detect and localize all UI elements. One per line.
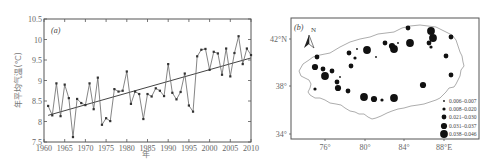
station-dot <box>397 42 399 44</box>
legend-label: 0.021–0.030 <box>449 114 477 120</box>
region-outline <box>299 25 464 119</box>
data-point <box>151 95 153 97</box>
data-point <box>217 52 219 54</box>
x-tick-label: 1995 <box>181 144 197 153</box>
data-point <box>188 104 190 106</box>
station-dot <box>380 98 383 101</box>
data-point <box>175 98 177 100</box>
data-point <box>134 90 136 92</box>
x-tick-label: 2000 <box>202 144 218 153</box>
legend-dot <box>442 115 447 120</box>
station-dot <box>347 51 352 56</box>
station-dot <box>429 34 437 42</box>
data-point <box>233 52 235 54</box>
x-tick-label: 1965 <box>57 144 73 153</box>
data-point <box>117 90 119 92</box>
station-dot <box>349 64 354 69</box>
data-point <box>155 87 157 89</box>
data-point <box>93 108 95 110</box>
data-point <box>130 103 132 105</box>
x-axis-title: 年 <box>142 149 150 159</box>
station-dot <box>360 93 368 101</box>
x-tick-label: 1975 <box>98 144 114 153</box>
data-point <box>184 72 186 74</box>
data-point <box>113 88 115 90</box>
data-point <box>72 136 74 138</box>
data-point <box>109 120 111 122</box>
legend-label: 0.031–0.037 <box>449 123 477 129</box>
data-point <box>84 104 86 106</box>
lon-tick-label: 76° <box>319 143 330 152</box>
x-tick-label: 1980 <box>119 144 135 153</box>
data-point <box>51 114 53 116</box>
data-point <box>225 47 227 49</box>
lat-tick-label: 34° <box>276 130 287 139</box>
data-point <box>55 82 57 84</box>
x-tick-label: 2010 <box>243 144 259 153</box>
data-point <box>200 49 202 51</box>
data-point <box>250 54 252 56</box>
data-point <box>196 55 198 57</box>
data-point <box>68 97 70 99</box>
lon-tick-label: 84° <box>398 143 409 152</box>
station-dot <box>390 94 398 102</box>
legend-label: 0.008–0.020 <box>449 106 477 112</box>
station-dot <box>363 46 371 54</box>
data-point <box>47 105 49 107</box>
data-point <box>246 47 248 49</box>
data-point <box>105 117 107 119</box>
station-dot <box>449 73 454 78</box>
station-dot <box>353 56 356 59</box>
data-point <box>64 84 66 86</box>
station-dot <box>330 69 335 74</box>
station-dot <box>335 85 341 91</box>
data-point <box>209 69 211 71</box>
data-point <box>167 63 169 65</box>
station-dot <box>427 41 432 46</box>
station-dot <box>375 56 377 58</box>
station-dot <box>339 76 341 78</box>
data-point <box>126 70 128 72</box>
panel-label-b: (b) <box>294 23 304 32</box>
station-dot <box>335 80 340 85</box>
figure: 7.588.599.51010.5 1960196519701975198019… <box>0 0 496 164</box>
station-dot <box>356 48 358 50</box>
legend: 0.006–0.0070.008–0.0200.021–0.0300.031–0… <box>440 98 477 138</box>
station-dot <box>346 89 351 94</box>
station-dot <box>406 26 411 31</box>
y-tick-label: 8 <box>38 118 42 127</box>
data-point <box>229 75 231 77</box>
station-dot <box>449 35 454 40</box>
x-tick-label: 1960 <box>36 144 52 153</box>
lon-ticks: 76°80°84°88°E <box>319 139 452 152</box>
station-dot <box>321 72 329 80</box>
data-point <box>101 124 103 126</box>
panel-a-line-chart: 7.588.599.51010.5 1960196519701975198019… <box>13 15 259 159</box>
data-point <box>204 48 206 50</box>
station-trend-dots <box>312 26 454 103</box>
station-dot <box>390 45 398 53</box>
north-arrow-icon: N <box>304 26 316 48</box>
y-tick-label: 8.5 <box>32 97 42 106</box>
y-tick-label: 10 <box>34 36 42 45</box>
legend-dot <box>441 123 447 129</box>
data-point <box>242 63 244 65</box>
data-point <box>213 51 215 53</box>
data-point <box>138 93 140 95</box>
x-tick-label: 1970 <box>77 144 93 153</box>
station-dot <box>371 96 377 102</box>
data-point <box>59 115 61 117</box>
lat-tick-label: 38° <box>276 82 287 91</box>
data-point <box>80 102 82 104</box>
station-dot <box>321 67 326 72</box>
station-dot <box>406 39 414 47</box>
plot-frame-a <box>44 19 251 142</box>
data-point <box>171 92 173 94</box>
lon-tick-label: 88°E <box>436 143 452 152</box>
data-point <box>192 111 194 113</box>
data-point <box>180 91 182 93</box>
panel-b-map: N (b) 34°38°42°N 76°80°84°88°E 0.006–0.0… <box>270 18 479 152</box>
station-dot <box>383 41 388 46</box>
x-tick-label: 2005 <box>222 144 238 153</box>
data-point <box>221 74 223 76</box>
